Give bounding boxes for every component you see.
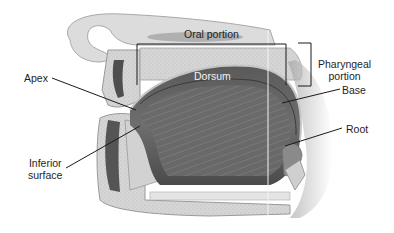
label-dorsum: Dorsum <box>194 70 231 82</box>
label-base: Base <box>342 84 366 96</box>
label-root: Root <box>346 123 368 135</box>
label-apex: Apex <box>24 72 48 84</box>
label-inferior-surface: Inferior surface <box>28 157 62 181</box>
tongue-body <box>130 65 301 185</box>
label-pharyngeal-line2: portion <box>318 70 371 82</box>
label-pharyngeal-line1: Pharyngeal <box>318 58 371 70</box>
label-inferior-line1: Inferior <box>28 157 62 169</box>
label-inferior-line2: surface <box>28 169 62 181</box>
label-oral-portion: Oral portion <box>184 28 239 40</box>
label-pharyngeal-portion: Pharyngeal portion <box>318 58 371 82</box>
